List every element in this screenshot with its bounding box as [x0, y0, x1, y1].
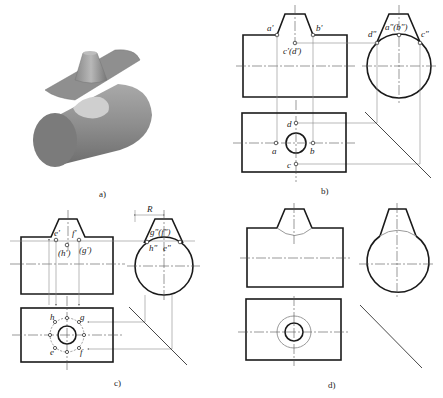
label-e-prime: e'	[54, 228, 61, 238]
d-side-view	[359, 203, 435, 299]
b-top-view: d a b c	[233, 100, 356, 182]
point-ab-double-prime	[397, 33, 401, 37]
d-intersection-curve-side	[380, 230, 416, 236]
point-e-double-prime	[178, 240, 182, 244]
label-gf-double-prime: g"(f")	[150, 227, 171, 237]
point-c	[294, 162, 298, 166]
label-g-prime: (g')	[79, 245, 91, 255]
d-intersection-curve-front	[277, 228, 312, 236]
label-f-prime: f'	[72, 228, 78, 238]
panel-a-3d-view: a)	[33, 50, 152, 199]
label-a: a	[272, 146, 277, 156]
b-45-degree-line	[365, 112, 431, 178]
label-h-prime: (h')	[58, 248, 70, 258]
d-front-view	[240, 203, 350, 287]
technical-drawing: a) a' b' c'(d') d" a"(b") c"	[0, 0, 443, 398]
label-a-prime: a'	[267, 23, 275, 33]
label-c: c	[287, 160, 291, 170]
label-ab-double-prime: a"(b")	[385, 22, 408, 32]
caption-d: d)	[328, 380, 336, 390]
caption-b: b)	[321, 186, 329, 196]
label-d-double-prime: d"	[368, 29, 377, 39]
label-b: b	[310, 146, 315, 156]
panel-c: e' f' (h') (g') R g"(f") h" e"	[10, 204, 200, 388]
d-45-degree-line	[360, 305, 422, 368]
d-top-view	[238, 296, 350, 366]
panel-d: d)	[238, 203, 435, 390]
point-h-prime	[65, 243, 69, 247]
c-top-view: h g e f	[12, 296, 122, 370]
b-front-view: a' b' c'(d')	[236, 5, 355, 97]
caption-a: a)	[99, 189, 106, 199]
label-g: g	[80, 312, 85, 322]
label-radius-r: R	[146, 204, 153, 214]
caption-c: c)	[114, 378, 121, 388]
c-45-degree-line	[129, 307, 187, 365]
label-e: e	[50, 347, 54, 357]
label-h-double-prime: h"	[149, 243, 158, 253]
label-f: f	[80, 347, 84, 357]
label-e-double-prime: e"	[163, 243, 171, 253]
c-side-view: R g"(f") h" e"	[127, 204, 200, 302]
point-d	[294, 121, 298, 125]
cone-top	[83, 51, 97, 55]
label-c-double-prime: c"	[421, 29, 429, 39]
label-d: d	[287, 119, 292, 129]
cylinder-end-face	[33, 113, 77, 167]
label-cd-prime: c'(d')	[283, 46, 301, 56]
point-b	[311, 141, 315, 145]
b-side-view: d" a"(b") c"	[362, 5, 438, 103]
label-b-prime: b'	[316, 23, 324, 33]
label-h: h	[50, 312, 55, 322]
point-a	[274, 141, 278, 145]
panel-b: a' b' c'(d') d" a"(b") c"	[233, 5, 438, 196]
